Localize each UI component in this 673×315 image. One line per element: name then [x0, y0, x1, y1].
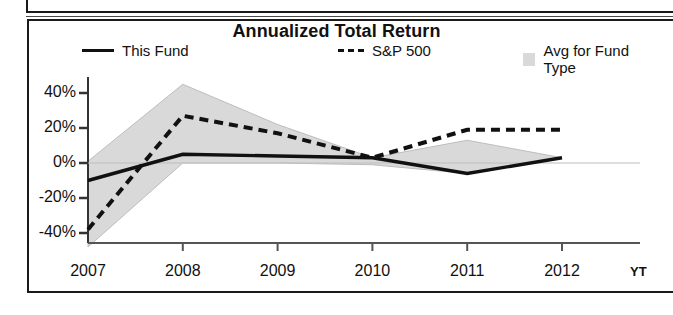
y-axis-tick-0: 40%	[18, 83, 76, 101]
x-axis-tick-2011: 2011	[432, 262, 502, 280]
y-axis-tick-4: -40%	[18, 223, 76, 241]
plot-area: 40%20%0%-20%-40% 20072008200920102011201…	[0, 0, 673, 315]
x-axis-tick-2009: 2009	[243, 262, 313, 280]
y-axis-tick-2: 0%	[18, 153, 76, 171]
avg-fund-type-band	[88, 84, 562, 247]
x-axis-tick-2007: 2007	[53, 262, 123, 280]
x-axis-tick-2008: 2008	[148, 262, 218, 280]
x-axis-tick-2012: 2012	[527, 262, 597, 280]
y-axis-tick-1: 20%	[18, 118, 76, 136]
y-axis-tick-3: -20%	[18, 188, 76, 206]
ytd-suffix-label: YT	[630, 264, 647, 279]
x-axis-tick-2010: 2010	[337, 262, 407, 280]
page-bottom-margin	[0, 296, 673, 315]
